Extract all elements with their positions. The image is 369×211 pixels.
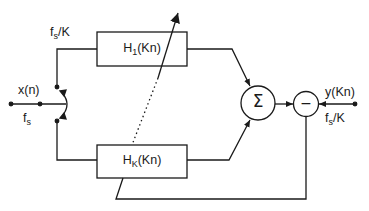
input-node	[9, 102, 13, 106]
ellipsis-dotted-line	[132, 78, 158, 145]
filter-h1-label: H1(Kn)	[97, 42, 187, 55]
output-signal-label: y(Kn)	[325, 86, 355, 99]
upper-rate-label: fs/K	[50, 26, 70, 39]
output-node	[353, 102, 357, 106]
upper-branch-line	[57, 49, 97, 87]
h1-output-line	[187, 49, 250, 86]
lower-branch-line	[57, 121, 97, 160]
input-rate-label: fs	[23, 112, 31, 125]
subtractor-symbol: −	[296, 96, 316, 110]
input-node-2	[38, 102, 42, 106]
summer-symbol: Σ	[246, 93, 270, 110]
output-rate-label: fs/K	[325, 112, 345, 125]
filter-hk-label: HK(Kn)	[97, 154, 187, 167]
input-signal-label: x(n)	[18, 84, 40, 97]
hk-output-line	[187, 120, 250, 160]
